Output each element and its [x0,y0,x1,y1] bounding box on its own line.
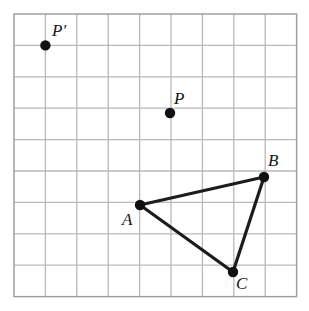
grid-lines [14,14,297,297]
segment-ca [140,205,233,272]
point-label-p-prime: P′ [52,22,66,39]
point-dot-b [259,172,269,182]
point-label-p: P [174,90,184,107]
point-label-b: B [268,152,278,169]
point-dot-p-prime [40,40,50,50]
geometry-canvas [0,0,309,311]
point-label-c: C [236,275,247,292]
segment-bc [233,177,264,272]
grid-border [14,14,297,297]
point-dots [40,40,269,277]
point-label-a: A [122,211,132,228]
point-dot-p [165,108,175,118]
point-dot-a [135,200,145,210]
geometry-figure: P′PABC [0,0,309,311]
